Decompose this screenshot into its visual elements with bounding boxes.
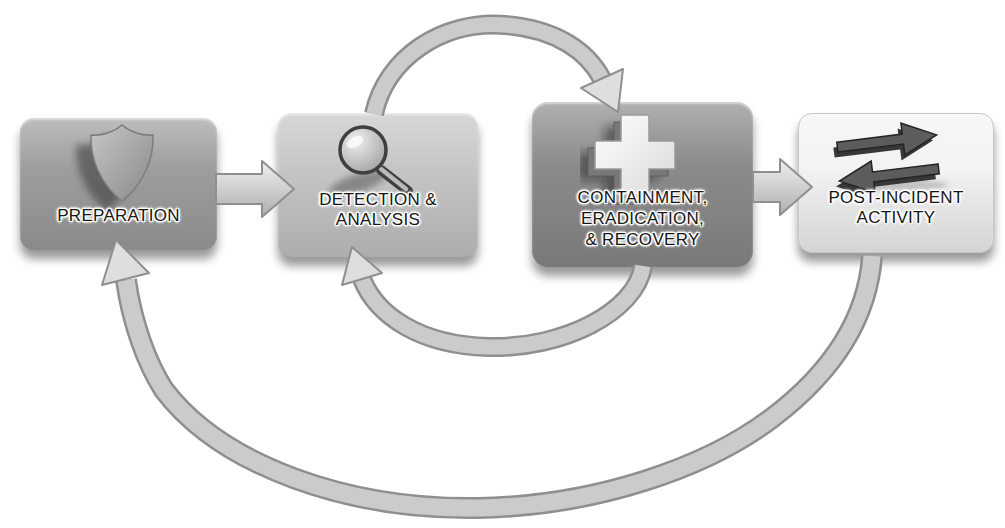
label-line: ANALYSIS bbox=[278, 210, 478, 230]
label-line: & RECOVERY bbox=[532, 229, 753, 250]
swap-arrow-right-face bbox=[835, 119, 938, 163]
stage-preparation: PREPARATION bbox=[20, 118, 217, 250]
arrow-postincident-to-preparation bbox=[102, 240, 872, 508]
arrow-detection-to-containment bbox=[374, 25, 623, 114]
arrow-band bbox=[362, 266, 643, 347]
arrow-band bbox=[126, 256, 872, 508]
label-line: ACTIVITY bbox=[799, 208, 993, 228]
label-line: DETECTION & bbox=[278, 190, 478, 210]
stage-preparation-label: PREPARATION bbox=[20, 206, 217, 226]
shield-icon bbox=[56, 120, 176, 220]
arrow-band bbox=[374, 25, 602, 114]
swap-arrow-right bbox=[831, 119, 939, 168]
flow-arrows-layer bbox=[0, 0, 1005, 528]
label-line: POST-INCIDENT bbox=[799, 188, 993, 208]
stage-containment-label: CONTAINMENT, ERADICATION, & RECOVERY bbox=[532, 187, 753, 250]
stage-detection-analysis-label: DETECTION & ANALYSIS bbox=[278, 190, 478, 230]
stage-post-incident-label: POST-INCIDENT ACTIVITY bbox=[799, 188, 993, 228]
stage-containment-eradication-recovery: CONTAINMENT, ERADICATION, & RECOVERY bbox=[532, 102, 753, 267]
label-line: CONTAINMENT, bbox=[532, 187, 753, 208]
incident-response-lifecycle-diagram: PREPARATION DETECTION & ANALYSIS bbox=[0, 0, 1005, 528]
magnifier-lens bbox=[340, 127, 386, 173]
arrow-band bbox=[374, 25, 602, 114]
stage-detection-analysis: DETECTION & ANALYSIS bbox=[278, 113, 478, 257]
label-line: PREPARATION bbox=[20, 206, 217, 226]
arrow-band bbox=[362, 266, 643, 347]
stage-post-incident-activity: POST-INCIDENT ACTIVITY bbox=[798, 113, 994, 253]
arrow-band bbox=[126, 256, 872, 508]
swap-arrows-icon bbox=[823, 118, 973, 193]
label-line: ERADICATION, bbox=[532, 208, 753, 229]
